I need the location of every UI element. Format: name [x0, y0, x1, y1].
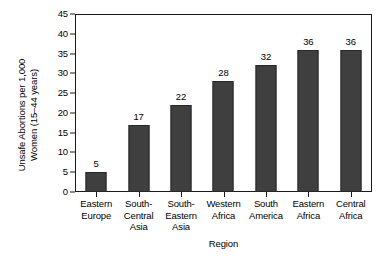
y-axis-tick-mark	[70, 132, 75, 133]
bar-value-label: 36	[303, 37, 313, 47]
x-axis-category-label-line: South	[249, 198, 283, 210]
bar[interactable]	[128, 125, 149, 192]
bar-value-label: 5	[94, 159, 99, 169]
y-axis-tick-label: 30	[46, 69, 68, 79]
bar-slot: 5	[75, 14, 117, 192]
y-axis-tick-label: 45	[46, 9, 68, 19]
y-axis-tick-label: 35	[46, 49, 68, 59]
x-axis-category-label: EasternAfrica	[292, 198, 324, 221]
y-axis-tick-label: 15	[46, 128, 68, 138]
bar-slot: 22	[160, 14, 202, 192]
bar-slot: 36	[287, 14, 329, 192]
y-axis-tick-label: 0	[46, 187, 68, 197]
x-axis-category-label-line: Asia	[165, 221, 197, 233]
x-axis-category-label-line: Africa	[206, 210, 240, 222]
bar-slot: 17	[117, 14, 159, 192]
x-axis-tick-mark	[96, 192, 97, 197]
x-axis-tick-mark	[351, 192, 352, 197]
x-axis-category-label-line: Western	[206, 198, 240, 210]
x-axis-category-label-line: Eastern	[165, 210, 197, 222]
y-axis-tick-mark	[70, 73, 75, 74]
bar-value-label: 28	[218, 68, 228, 78]
x-axis-category-label: EasternEurope	[80, 198, 112, 221]
y-axis-tick-label: 25	[46, 88, 68, 98]
x-axis-category-label-line: Africa	[336, 210, 366, 222]
x-axis-category-label-line: Central	[124, 210, 154, 222]
y-axis-tick-labels: 051015202530354045	[46, 14, 68, 192]
bar[interactable]	[298, 50, 319, 192]
y-axis-tick-mark	[70, 14, 75, 15]
y-axis-tick-label: 20	[46, 108, 68, 118]
y-axis-title-line-2: Women (15–44 years)	[28, 69, 40, 161]
x-axis-category-label-line: Asia	[124, 221, 154, 233]
x-axis-tick-mark	[266, 192, 267, 197]
y-axis-tick-label: 5	[46, 167, 68, 177]
bar[interactable]	[340, 50, 361, 192]
y-axis-title-line-1: Unsafe Abortions per 1,000	[16, 59, 28, 172]
x-axis-category-label: South-CentralAsia	[124, 198, 154, 233]
x-axis-category-label: WesternAfrica	[206, 198, 240, 221]
x-axis-category-label-line: Eastern	[292, 198, 324, 210]
y-axis-tick-mark	[70, 93, 75, 94]
y-axis-tick-mark	[70, 112, 75, 113]
y-axis-tick-label: 10	[46, 148, 68, 158]
bar-slot: 36	[330, 14, 372, 192]
x-axis-tick-mark	[308, 192, 309, 197]
x-axis-tick-marks	[75, 192, 372, 197]
bar[interactable]	[255, 65, 276, 192]
bar-chart: Unsafe Abortions per 1,000 Women (15–44 …	[0, 0, 391, 261]
bar-value-label: 22	[176, 92, 186, 102]
bar-value-label: 17	[133, 112, 143, 122]
bar-value-label: 32	[261, 52, 271, 62]
bar[interactable]	[171, 105, 192, 192]
y-axis-title: Unsafe Abortions per 1,000 Women (15–44 …	[11, 25, 45, 205]
y-axis-tick-mark	[70, 53, 75, 54]
bar[interactable]	[86, 172, 107, 192]
x-axis-title: Region	[75, 238, 372, 249]
x-axis-tick-mark	[139, 192, 140, 197]
x-axis-tick-mark	[181, 192, 182, 197]
x-axis-category-label: CentralAfrica	[336, 198, 366, 221]
x-axis-category-label-line: South-	[124, 198, 154, 210]
x-axis-category-label: SouthAmerica	[249, 198, 283, 221]
y-axis-tick-label: 40	[46, 29, 68, 39]
x-axis-category-label-line: Africa	[292, 210, 324, 222]
bar[interactable]	[213, 81, 234, 192]
x-axis-category-label-line: Eastern	[80, 198, 112, 210]
x-axis-category-label-line: Europe	[80, 210, 112, 222]
x-axis-category-label-line: Central	[336, 198, 366, 210]
bar-slot: 32	[245, 14, 287, 192]
x-axis-category-labels: EasternEuropeSouth-CentralAsiaSouth-East…	[75, 198, 372, 234]
bar-value-label: 36	[346, 37, 356, 47]
y-axis-tick-mark	[70, 192, 75, 193]
y-axis-tick-mark	[70, 33, 75, 34]
x-axis-category-label-line: America	[249, 210, 283, 222]
y-axis-tick-mark	[70, 152, 75, 153]
x-axis-category-label-line: South-	[165, 198, 197, 210]
x-axis-category-label: South-EasternAsia	[165, 198, 197, 233]
bars-layer: 5172228323636	[75, 14, 372, 192]
y-axis-tick-mark	[70, 172, 75, 173]
bar-slot: 28	[202, 14, 244, 192]
x-axis-tick-mark	[224, 192, 225, 197]
